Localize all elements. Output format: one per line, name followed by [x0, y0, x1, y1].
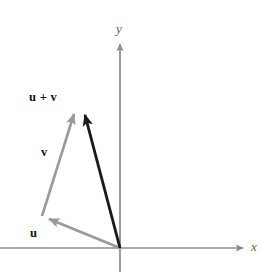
vector-u-label: u [30, 227, 37, 240]
vector-v-label: v [41, 146, 47, 159]
y-axis-label: y [116, 22, 122, 35]
x-axis-label: x [251, 240, 257, 253]
vector-diagram-canvas [0, 0, 262, 277]
vector-u-plus-v-label: u + v [29, 91, 57, 104]
vector-v-arrow [42, 114, 74, 216]
vector-u-plus-v-arrow [85, 115, 120, 248]
vector-u-arrow [49, 219, 120, 248]
vector-addition-figure: y x u + v v u [0, 0, 262, 277]
